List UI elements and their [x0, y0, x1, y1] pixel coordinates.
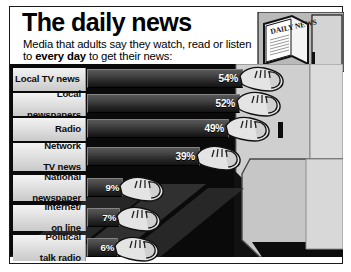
bar-value-label: 54% [219, 73, 242, 84]
bar-local-newspapers: 52% [87, 94, 240, 113]
pointing-hand-icon [113, 234, 161, 263]
bar-label-text: Internet/on line [45, 202, 82, 233]
bar-label-political-talk-radio: Politicaltalk radio [13, 235, 86, 261]
infographic-root: The daily news Media that adults say the… [0, 0, 351, 272]
chart-subtitle: Media that adults say they watch, read o… [23, 38, 263, 63]
bar-label-text: NetworkTV news [43, 141, 81, 172]
bar-label-text: Local TV news [13, 74, 81, 84]
bar-value-label: 6% [101, 242, 117, 253]
bar-value-label: 7% [103, 212, 119, 223]
table-row: Localnewspapers 52% [10, 93, 343, 116]
bar-radio: 49% [87, 119, 229, 138]
table-row: Nationalnewspaper 9% [10, 175, 343, 201]
bar-national-newspaper: 9% [87, 178, 123, 197]
bar-rows: Local TV news 54% Localnewspapers 52% [10, 65, 343, 257]
subtitle-emphasis: every day [35, 50, 86, 62]
bar-political-talk-radio: 6% [87, 238, 118, 257]
bar-label-network-tv-news: NetworkTV news [13, 143, 86, 171]
bar-label-national-newspaper: Nationalnewspaper [13, 175, 86, 201]
table-row: Radio 49% [10, 118, 343, 141]
bar-internet-online: 7% [87, 208, 120, 227]
bar-value-label: 9% [106, 182, 122, 193]
bar-label-radio: Radio [13, 118, 86, 141]
bar-network-tv-news: 39% [87, 147, 200, 166]
table-row: NetworkTV news 39% [10, 143, 343, 171]
bar-local-tv-news: 54% [87, 69, 243, 88]
table-row: Internet/on line 7% [10, 205, 343, 231]
pointing-hand-icon [118, 174, 166, 203]
subtitle-text-after: to get their news: [86, 50, 172, 62]
table-row: Politicaltalk radio 6% [10, 235, 343, 261]
bar-value-label: 39% [176, 151, 199, 162]
bar-label-text: Radio [55, 124, 81, 134]
pointing-hand-icon [195, 143, 243, 172]
bar-label-text: Localnewspapers [27, 89, 81, 120]
pointing-hand-icon [235, 89, 283, 118]
bar-value-label: 49% [205, 123, 228, 134]
bar-label-internet-online: Internet/on line [13, 205, 86, 231]
bar-label-local-newspapers: Localnewspapers [13, 93, 86, 116]
page-title: The daily news [22, 9, 191, 36]
bar-value-label: 52% [216, 98, 239, 109]
newspaper-icon: DAILY NEWS [252, 12, 344, 72]
bar-label-text: Politicaltalk radio [40, 232, 81, 263]
pointing-hand-icon [115, 204, 163, 233]
pointing-hand-icon [224, 114, 272, 143]
pointing-hand-icon [238, 64, 286, 93]
bar-label-text: Nationalnewspaper [32, 172, 81, 203]
